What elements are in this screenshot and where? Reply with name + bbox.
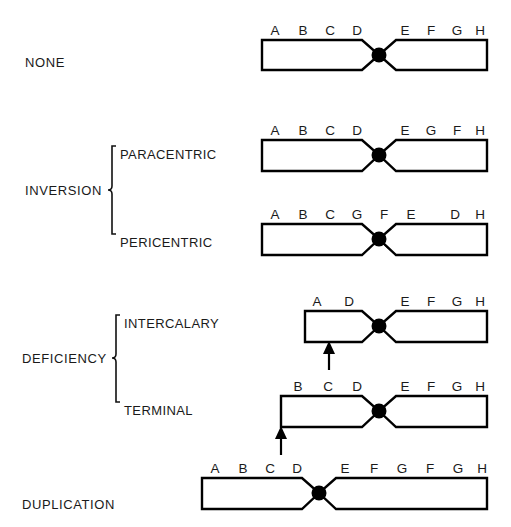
band-letter: C — [325, 208, 335, 222]
chromosome-aberration-diagram: NONE INVERSION DEFICIENCY DUPLICATION PA… — [0, 0, 511, 527]
band-letter: E — [400, 24, 409, 38]
category-label-duplication: DUPLICATION — [22, 498, 115, 511]
band-letter: G — [452, 295, 463, 309]
centromere-icon — [372, 48, 387, 63]
breakpoint-arrow-intercalary — [323, 341, 335, 370]
centromere-icon — [372, 148, 387, 163]
band-letter: D — [344, 295, 354, 309]
band-letter: C — [265, 462, 275, 476]
chromosome-paracentric — [262, 139, 487, 173]
category-label-deficiency: DEFICIENCY — [22, 352, 107, 365]
chromosome-none — [262, 40, 487, 70]
band-letter: G — [426, 124, 437, 138]
band-letter: G — [453, 462, 464, 476]
subtype-label-terminal: TERMINAL — [124, 404, 193, 417]
chromosome-intercalary — [305, 311, 487, 370]
band-letter: B — [298, 24, 307, 38]
band-letter: A — [312, 295, 321, 309]
centromere-icon — [312, 486, 327, 501]
breakpoint-arrow-terminal — [275, 426, 287, 455]
band-letter: F — [370, 462, 378, 476]
band-letter: D — [292, 462, 302, 476]
chromosome-right-arm — [379, 224, 487, 255]
band-letter: G — [452, 380, 463, 394]
band-letter: B — [293, 380, 302, 394]
band-letter: H — [475, 295, 485, 309]
band-letter: E — [400, 380, 409, 394]
band-letter: G — [452, 24, 463, 38]
chromosome-right-arm — [379, 311, 487, 342]
band-letter: H — [475, 124, 485, 138]
band-letter: F — [453, 124, 461, 138]
band-letter: E — [400, 124, 409, 138]
band-letter: B — [298, 208, 307, 222]
band-letter: A — [210, 462, 219, 476]
band-letter: E — [340, 462, 349, 476]
band-letter: F — [426, 462, 434, 476]
band-letter: H — [475, 380, 485, 394]
centromere-icon — [372, 404, 387, 419]
category-label-none: NONE — [25, 56, 65, 69]
chromosome-left-arm — [305, 311, 379, 342]
band-letter: H — [475, 24, 485, 38]
diagram-canvas — [0, 0, 511, 527]
chromosome-terminal — [275, 396, 487, 455]
band-letter: H — [475, 208, 485, 222]
band-letter: G — [352, 208, 363, 222]
subtype-label-intercalary: INTERCALARY — [124, 317, 219, 330]
band-letter: E — [400, 295, 409, 309]
band-letter: A — [270, 24, 279, 38]
chromosome-right-arm — [319, 478, 487, 509]
band-letter: B — [238, 462, 247, 476]
band-letter: A — [270, 124, 279, 138]
band-letter: E — [406, 208, 415, 222]
band-letter: D — [352, 380, 362, 394]
band-letter: A — [270, 208, 279, 222]
chromosome-left-arm — [262, 40, 379, 70]
subtype-label-pericentric: PERICENTRIC — [120, 236, 213, 249]
subtype-label-paracentric: PARACENTRIC — [120, 148, 217, 161]
band-letter: C — [323, 380, 333, 394]
chromosome-right-arm — [379, 40, 487, 70]
centromere-icon — [372, 232, 387, 247]
centromere-icon — [372, 319, 387, 334]
chromosome-right-arm — [379, 396, 487, 427]
band-letter: F — [427, 295, 435, 309]
band-letter: H — [477, 462, 487, 476]
band-letter: B — [298, 124, 307, 138]
band-letter: C — [325, 124, 335, 138]
chromosome-right-arm — [379, 140, 487, 171]
band-letter: F — [427, 380, 435, 394]
category-label-inversion: INVERSION — [25, 184, 102, 197]
chromosome-duplication — [202, 477, 487, 511]
band-letter: D — [352, 124, 362, 138]
band-letter: C — [325, 24, 335, 38]
band-letter: G — [397, 462, 408, 476]
band-letter: D — [450, 208, 460, 222]
brace-deficiency — [112, 315, 120, 402]
band-letter: D — [352, 24, 362, 38]
chromosome-left-arm — [281, 396, 379, 427]
chromosome-left-arm — [262, 140, 379, 171]
chromosome-pericentric — [262, 223, 487, 257]
chromosome-left-arm — [202, 478, 319, 509]
chromosome-left-arm — [262, 224, 379, 255]
band-letter: F — [380, 208, 388, 222]
brace-inversion — [108, 146, 116, 234]
band-letter: F — [427, 24, 435, 38]
